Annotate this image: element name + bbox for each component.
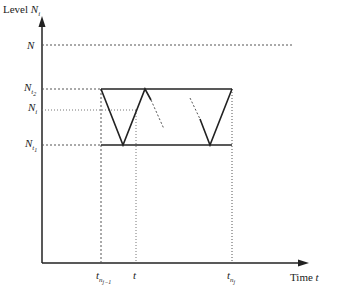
level-n-t1-label: Nt1 (25, 138, 37, 153)
level-trajectory-dashed-1 (151, 100, 164, 129)
tick-t-nj-label: tnj (227, 270, 235, 285)
inventory-level-diagram (0, 0, 338, 293)
level-n-label: N (27, 40, 34, 51)
tick-t-nj-1-label: tnj−1 (96, 270, 111, 285)
level-trajectory-last (200, 89, 232, 145)
x-axis-arrow-icon (298, 260, 309, 267)
level-n-t2-label: Nt2 (24, 82, 36, 97)
level-trajectory-first (101, 89, 151, 145)
y-axis-label: Level Ni (3, 4, 40, 18)
x-axis-label: Time t (290, 272, 319, 283)
level-n-i-label: Ni (28, 102, 37, 116)
level-trajectory-dashed-2 (190, 98, 200, 119)
tick-t-label: t (133, 270, 136, 281)
